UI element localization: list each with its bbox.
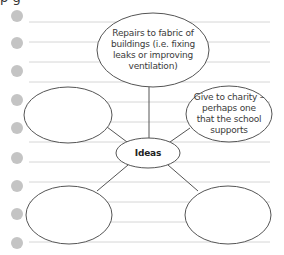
top-idea-text: Repairs to fabric of buildings (i.e. fix… bbox=[108, 24, 198, 76]
bottom-left-idea-text bbox=[32, 195, 106, 235]
binder-holes bbox=[11, 10, 23, 249]
bottom-right-idea-text bbox=[191, 195, 265, 235]
right-idea-text: Give to charity – perhaps one that the s… bbox=[193, 91, 265, 137]
left-idea-text bbox=[30, 95, 106, 135]
center-ideas-text: Ideas bbox=[120, 145, 176, 161]
